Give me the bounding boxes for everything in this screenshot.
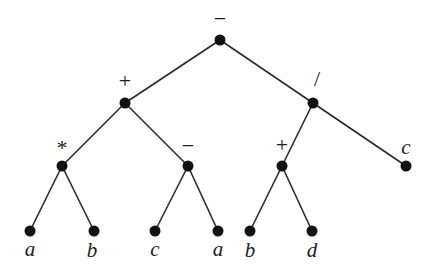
edge-plus2-leafB2 xyxy=(250,166,282,231)
operand-label-leafD: d xyxy=(307,238,318,262)
edge-plus1-minus2 xyxy=(125,103,188,166)
edge-minus2-leafC2 xyxy=(155,166,188,231)
operator-label-mul: * xyxy=(57,135,68,160)
edge-plus2-leafD xyxy=(282,166,312,231)
edge-root-div xyxy=(220,40,313,103)
edge-mul-leafB1 xyxy=(62,166,94,231)
node-leafB2 xyxy=(245,226,256,237)
expression-tree-diagram: −+/*−+cabcabd xyxy=(0,0,434,275)
operator-label-minus2: − xyxy=(182,133,194,158)
edge-div-leafC1 xyxy=(313,103,406,166)
operand-label-leafC2: c xyxy=(150,237,160,261)
operator-label-root: − xyxy=(214,6,226,31)
edge-root-plus1 xyxy=(125,40,220,103)
operand-label-leafB1: b xyxy=(87,238,98,262)
edge-mul-leafA1 xyxy=(30,166,62,231)
node-mul xyxy=(57,161,68,172)
operand-label-leafA2: a xyxy=(213,237,224,261)
node-plus1 xyxy=(120,98,131,109)
node-div xyxy=(308,98,319,109)
operator-label-plus1: + xyxy=(119,68,131,93)
edge-minus2-leafA2 xyxy=(188,166,218,231)
node-plus2 xyxy=(277,161,288,172)
edges-layer xyxy=(30,40,406,231)
tree-svg: −+/*−+cabcabd xyxy=(0,0,434,275)
operand-label-leafA1: a xyxy=(25,237,36,261)
node-minus2 xyxy=(183,161,194,172)
operand-label-leafB2: b xyxy=(245,238,256,262)
node-root xyxy=(215,35,226,46)
node-leafC1 xyxy=(401,161,412,172)
operator-label-plus2: + xyxy=(276,132,288,157)
node-leafC2 xyxy=(150,226,161,237)
node-leafA2 xyxy=(213,226,224,237)
node-leafB1 xyxy=(89,226,100,237)
node-leafD xyxy=(307,226,318,237)
operator-label-div: / xyxy=(314,66,321,91)
edge-plus1-mul xyxy=(62,103,125,166)
operand-label-leafC1: c xyxy=(401,135,411,159)
node-leafA1 xyxy=(25,226,36,237)
